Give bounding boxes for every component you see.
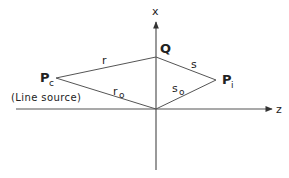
x-axis-label: x (152, 5, 159, 18)
svg-text:o: o (119, 90, 125, 100)
segment-s0-label: s o (172, 82, 185, 97)
svg-text:o: o (179, 87, 185, 97)
svg-text:s: s (172, 82, 178, 95)
segment-s (156, 57, 216, 80)
geometry-diagram: x z Q P c (Line source) P i r s r o s o (0, 0, 289, 178)
line-source-annotation: (Line source) (11, 92, 81, 103)
segment-r-label: r (102, 54, 107, 67)
segment-s0 (156, 80, 216, 109)
svg-text:r: r (113, 85, 118, 98)
point-pi-label: P i (222, 72, 234, 90)
svg-text:i: i (231, 80, 234, 90)
segment-r0-label: r o (113, 85, 125, 100)
segment-s-label: s (191, 58, 197, 71)
point-pc-label: P c (40, 70, 54, 88)
z-axis-label: z (276, 103, 282, 116)
point-q-label: Q (160, 41, 171, 56)
svg-text:c: c (49, 78, 54, 88)
